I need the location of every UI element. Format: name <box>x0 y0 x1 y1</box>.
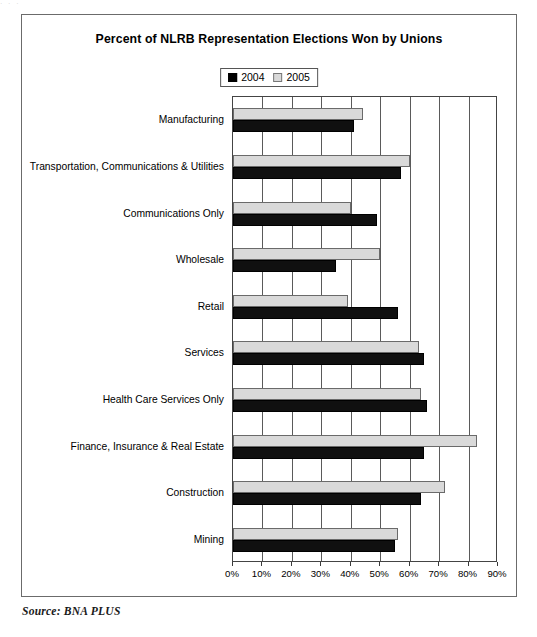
chart-frame: Percent of NLRB Representation Elections… <box>21 14 517 597</box>
plot-wrapper: ManufacturingTransportation, Communicati… <box>22 96 516 586</box>
x-axis-tick-label: 20% <box>281 568 300 579</box>
y-axis-category-label: Manufacturing <box>24 114 224 125</box>
x-axis-tick-label: 50% <box>370 568 389 579</box>
bar-2004 <box>233 447 424 459</box>
tick-mark <box>468 562 469 566</box>
tick-mark <box>379 562 380 566</box>
y-axis-category-labels: ManufacturingTransportation, Communicati… <box>22 96 231 562</box>
bar-2005 <box>233 295 348 307</box>
bar-2004 <box>233 120 354 132</box>
bar-2005 <box>233 341 419 353</box>
x-axis-tick-label: 30% <box>311 568 330 579</box>
bar-2004 <box>233 260 336 272</box>
x-axis-tick-label: 70% <box>429 568 448 579</box>
legend-swatch-2004-icon <box>228 73 237 82</box>
tick-mark <box>409 562 410 566</box>
gridline <box>469 97 470 561</box>
bar-2004 <box>233 167 401 179</box>
tick-mark <box>291 562 292 566</box>
bar-2004 <box>233 400 427 412</box>
bar-2005 <box>233 481 445 493</box>
bar-2005 <box>233 388 421 400</box>
y-axis-category-label: Communications Only <box>24 207 224 218</box>
tick-mark <box>320 562 321 566</box>
bar-2005 <box>233 435 477 447</box>
scan-artifact-text: · · · <box>0 0 537 9</box>
bar-2005 <box>233 155 410 167</box>
x-axis-tick-label: 40% <box>340 568 359 579</box>
chart-page: · · · Percent of NLRB Representation Ele… <box>0 0 537 637</box>
legend-swatch-2005-icon <box>274 73 283 82</box>
legend-label-2004: 2004 <box>241 71 264 83</box>
tick-mark <box>438 562 439 566</box>
y-axis-category-label: Retail <box>24 300 224 311</box>
bar-2005 <box>233 248 380 260</box>
bar-2005 <box>233 528 398 540</box>
x-axis-tick-label: 0% <box>225 568 239 579</box>
y-axis-category-label: Health Care Services Only <box>24 393 224 404</box>
x-axis-tick-label: 10% <box>252 568 271 579</box>
y-axis-category-label: Mining <box>24 533 224 544</box>
bar-2004 <box>233 540 395 552</box>
y-axis-category-label: Finance, Insurance & Real Estate <box>24 440 224 451</box>
bar-2004 <box>233 307 398 319</box>
tick-mark <box>232 562 233 566</box>
x-axis-tick-label: 60% <box>399 568 418 579</box>
y-axis-category-label: Construction <box>24 487 224 498</box>
tick-mark <box>350 562 351 566</box>
legend-label-2005: 2005 <box>287 71 310 83</box>
plot-area <box>232 96 497 562</box>
y-axis-category-label: Wholesale <box>24 254 224 265</box>
x-axis-tick-label: 90% <box>487 568 506 579</box>
y-axis-category-label: Services <box>24 347 224 358</box>
bar-2004 <box>233 353 424 365</box>
x-axis-tick-label: 80% <box>458 568 477 579</box>
y-axis-category-label: Transportation, Communications & Utiliti… <box>24 160 224 171</box>
source-note: Source: BNA PLUS <box>22 605 121 618</box>
x-axis-ticks: 0%10%20%30%40%50%60%70%80%90% <box>232 562 497 586</box>
tick-mark <box>261 562 262 566</box>
tick-mark <box>497 562 498 566</box>
chart-title: Percent of NLRB Representation Elections… <box>22 32 516 46</box>
legend-item-2004: 2004 <box>228 71 264 83</box>
bar-2005 <box>233 202 351 214</box>
bar-2004 <box>233 493 421 505</box>
chart-legend: 2004 2005 <box>220 68 318 87</box>
legend-item-2005: 2005 <box>274 71 310 83</box>
bar-2005 <box>233 108 363 120</box>
bar-2004 <box>233 214 377 226</box>
